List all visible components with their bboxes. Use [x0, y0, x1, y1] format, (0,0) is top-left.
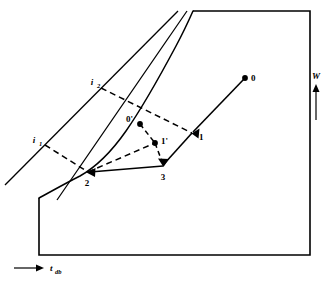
state-point-2-label: 2 — [85, 178, 90, 188]
state-point-1-label: 1 — [199, 132, 204, 142]
enthalpy-label-i2-base: i — [91, 77, 94, 87]
state-point-0-label: 0 — [251, 73, 256, 83]
state-point-0-marker — [242, 75, 248, 81]
process-0-to-1 — [193, 78, 245, 132]
state-point-1prime-marker — [152, 140, 158, 146]
state-point-0prime-marker — [137, 121, 143, 127]
y-axis-label: W — [312, 71, 321, 81]
enthalpy-label-i1-subscript: 1 — [39, 140, 42, 147]
enthalpy-tie-i2-to-1 — [101, 88, 192, 133]
state-point-0prime-label: 0' — [126, 114, 133, 124]
enthalpy-label-i2-subscript: 2 — [96, 82, 101, 89]
process-0prime-to-1prime — [140, 124, 155, 143]
enthalpy-line-i1 — [5, 11, 178, 185]
psychrometric-chart-figure: 0 1 2 3 0' 1' i 1 i 2 W t db — [0, 0, 328, 281]
x-axis-label: t — [50, 263, 53, 273]
y-axis-group: W — [312, 71, 321, 120]
state-point-1prime-label: 1' — [161, 136, 168, 146]
x-axis-group: t db — [14, 263, 62, 275]
enthalpy-line-i2 — [57, 11, 187, 200]
chart-canvas: 0 1 2 3 0' 1' i 1 i 2 W t db — [0, 0, 328, 281]
x-axis-label-subscript: db — [55, 268, 62, 275]
enthalpy-tie-i1-to-2 — [45, 145, 88, 172]
enthalpy-label-i2: i 2 — [91, 77, 101, 89]
up-arrow-icon — [313, 84, 320, 92]
state-point-3-label: 3 — [161, 172, 166, 182]
enthalpy-label-i1: i 1 — [33, 135, 43, 147]
enthalpy-label-i1-base: i — [33, 135, 36, 145]
right-arrow-icon — [36, 265, 44, 272]
